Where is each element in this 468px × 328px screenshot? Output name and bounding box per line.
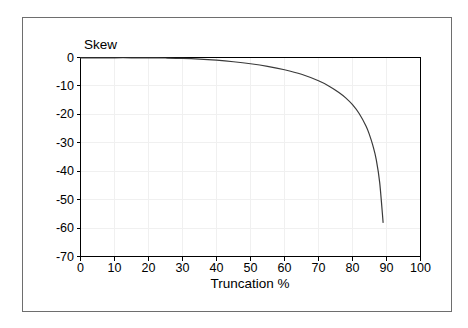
x-tick-label: 30 <box>176 262 190 275</box>
x-axis-title: Truncation % <box>210 277 289 291</box>
data-series <box>81 58 384 223</box>
tick-marks <box>77 58 421 261</box>
series-line-skew <box>81 58 384 223</box>
x-tick-label: 60 <box>278 262 292 275</box>
y-tick-label: -50 <box>40 193 74 206</box>
y-tick-label: 0 <box>40 51 74 64</box>
x-tick-label: 70 <box>312 262 326 275</box>
y-tick-label: -10 <box>40 80 74 93</box>
x-tick-label: 20 <box>142 262 156 275</box>
y-tick-label: -60 <box>40 222 74 235</box>
y-tick-label: -20 <box>40 108 74 121</box>
x-tick-label: 100 <box>410 262 431 275</box>
x-tick-label: 80 <box>346 262 360 275</box>
y-tick-label: -70 <box>40 250 74 263</box>
y-axis-title: Skew <box>84 38 117 52</box>
gridlines <box>81 58 421 257</box>
y-tick-label: -40 <box>40 165 74 178</box>
x-tick-label: 90 <box>380 262 394 275</box>
x-tick-label: 50 <box>244 262 258 275</box>
chart-figure: 0-10-20-30-40-50-60-70 01020304050607080… <box>0 0 468 328</box>
x-tick-label: 0 <box>77 262 84 275</box>
x-tick-label: 40 <box>210 262 224 275</box>
x-tick-label: 10 <box>108 262 122 275</box>
y-tick-label: -30 <box>40 137 74 150</box>
